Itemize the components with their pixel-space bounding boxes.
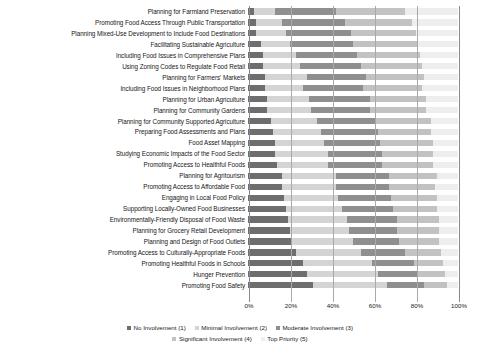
bar-segment (405, 8, 458, 14)
bar-segment (248, 271, 307, 277)
category-label: Promoting Access to Healthful Foods (0, 161, 248, 168)
bar-segment (443, 260, 458, 266)
stacked-bar (248, 184, 458, 190)
bar-segment (248, 41, 261, 47)
bar-segment (248, 173, 282, 179)
bar-segment (435, 184, 458, 190)
x-tick-label: 0% (245, 302, 254, 310)
stacked-bar (248, 41, 458, 47)
bar-row: Hunger Prevention (0, 269, 480, 280)
legend-item[interactable]: No Involvement (1) (127, 324, 186, 331)
legend-row-secondary: Significant Involvement (4)Top Priority … (0, 333, 480, 344)
bar-segment (447, 282, 458, 288)
legend-swatch-icon (276, 326, 280, 330)
bar-segment (433, 151, 458, 157)
bar-segment (391, 195, 437, 201)
bar-segment (439, 238, 458, 244)
category-label: Environmentally-Friendly Disposal of Foo… (0, 216, 248, 223)
bar-segment (445, 271, 458, 277)
bar-row: Planning for Community Supported Agricul… (0, 116, 480, 127)
bar-segment (248, 184, 282, 190)
category-label: Facilitating Sustainable Agriculture (0, 41, 248, 48)
bar-segment (248, 260, 303, 266)
stacked-bar (248, 85, 458, 91)
bar-segment (357, 52, 420, 58)
bar-row: Planning for Farmers' Markets (0, 72, 480, 83)
category-label: Including Food Issues in Neighborhood Pl… (0, 85, 248, 92)
bar-segment (248, 52, 263, 58)
bar-segment (439, 216, 458, 222)
category-label: Promoting Healthful Foods in Schools (0, 260, 248, 267)
category-label: Including Food Issues in Comprehensive P… (0, 52, 248, 59)
bar-segment (324, 140, 381, 146)
bar-segment (393, 206, 437, 212)
bar-segment (267, 96, 309, 102)
stacked-bar (248, 271, 458, 277)
bar-segment (370, 96, 427, 102)
bar-segment (248, 129, 273, 135)
stacked-bar (248, 63, 458, 69)
legend-item[interactable]: Moderate Involvement (3) (276, 324, 353, 331)
stacked-bar (248, 260, 458, 266)
bar-segment (414, 260, 443, 266)
stacked-bar (248, 151, 458, 157)
x-tick-label: 60% (369, 302, 381, 310)
bar-segment (286, 206, 343, 212)
category-label: Promoting Food Access Through Public Tra… (0, 19, 248, 26)
bar-segment (342, 206, 392, 212)
bar-segment (353, 41, 418, 47)
bar-segment (363, 85, 422, 91)
x-tick-label: 100% (451, 302, 467, 310)
bar-segment (248, 151, 275, 157)
bar-segment (275, 8, 336, 14)
bar-segment (382, 151, 432, 157)
bar-segment (426, 96, 458, 102)
bar-row: Planning for Grocery Retail Development (0, 225, 480, 236)
legend-item[interactable]: Significant Involvement (4) (172, 335, 251, 342)
bar-segment (437, 195, 458, 201)
bar-row: Including Food Issues in Neighborhood Pl… (0, 83, 480, 94)
category-label: Promoting Access to Affordable Food (0, 183, 248, 190)
stacked-bar (248, 195, 458, 201)
bar-segment (418, 271, 445, 277)
bar-segment (296, 52, 357, 58)
bar-segment (300, 63, 361, 69)
bar-segment (307, 74, 366, 80)
bar-segment (277, 162, 327, 168)
legend-item[interactable]: Minimal Involvement (2) (195, 324, 267, 331)
category-label: Promoting Access to Culturally-Appropria… (0, 249, 248, 256)
category-label: Planning for Farmland Preservation (0, 8, 248, 15)
bar-segment (288, 216, 347, 222)
legend-item[interactable]: Top Priority (5) (261, 335, 308, 342)
bar-segment (248, 140, 275, 146)
bar-segment (424, 74, 458, 80)
bar-segment (282, 184, 337, 190)
bar-segment (412, 19, 458, 25)
bar-row: Promoting Access to Culturally-Appropria… (0, 247, 480, 258)
bar-rows: Planning for Farmland PreservationPromot… (0, 6, 480, 302)
bar-segment (336, 8, 405, 14)
bar-segment (263, 52, 297, 58)
bar-segment (426, 107, 458, 113)
bar-segment (433, 162, 458, 168)
bar-segment (361, 249, 405, 255)
bar-row: Including Food Issues in Comprehensive P… (0, 50, 480, 61)
bar-segment (273, 129, 321, 135)
legend-label: Moderate Involvement (3) (282, 324, 353, 331)
bar-segment (345, 19, 412, 25)
bar-segment (416, 30, 458, 36)
bar-segment (307, 271, 378, 277)
bar-segment (422, 63, 458, 69)
bar-row: Promoting Access to Affordable Food (0, 181, 480, 192)
bar-segment (303, 85, 364, 91)
bar-segment (248, 30, 256, 36)
bar-segment (321, 129, 378, 135)
bar-segment (389, 184, 435, 190)
bar-segment (265, 74, 307, 80)
bar-segment (248, 118, 271, 124)
bar-segment (353, 238, 399, 244)
bar-row: Promoting Food Access Through Public Tra… (0, 17, 480, 28)
bar-row: Planning for Community Gardens (0, 105, 480, 116)
bar-segment (378, 271, 418, 277)
bar-segment (431, 118, 458, 124)
